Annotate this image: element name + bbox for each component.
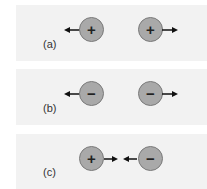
positive-charge: + [79,17,104,42]
panel-c: (c) + − [16,134,207,189]
panel-c-label: (c) [43,166,56,178]
negative-charge: − [138,146,163,171]
arrow-right-icon [162,90,178,98]
positive-charge: + [138,17,163,42]
arrow-right-icon [162,26,178,34]
panel-b-label: (b) [43,102,56,114]
arrow-left-icon [64,90,80,98]
negative-charge: − [79,81,104,106]
arrow-right-icon [104,155,118,163]
arrow-left-icon [64,26,80,34]
panel-a-label: (a) [43,38,56,50]
arrow-left-icon [123,155,137,163]
panel-a: (a) + + [16,5,207,61]
negative-charge: − [138,81,163,106]
positive-charge: + [79,146,104,171]
panel-b: (b) − − [16,69,207,125]
